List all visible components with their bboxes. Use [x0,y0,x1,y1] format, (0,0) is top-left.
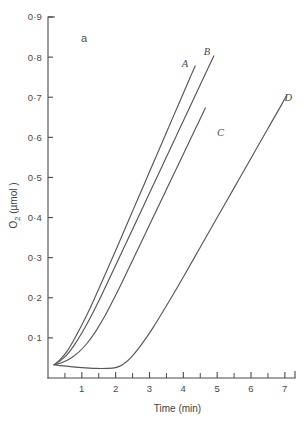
figure-panel-a: 0·90·80·70·60·50·40·30·20·11234567 ABCDa… [0,0,307,434]
y-axis-tick-label: 0·2 [28,292,42,303]
curve-b [54,56,214,365]
x-axis-tick-label: 1 [79,383,84,394]
x-axis-tick-label: 3 [147,383,152,394]
curve-a [54,66,195,365]
y-axis-tick-label: 0·1 [28,332,42,343]
y-axis-tick-label: 0·5 [28,172,42,183]
panel-label: a [81,32,88,44]
axes-group: 0·90·80·70·60·50·40·30·20·11234567 [28,11,295,394]
y-axis-tick-label: 0·8 [28,52,42,63]
x-axis-title: Time (min) [154,403,201,414]
y-axis-tick-label: 0·6 [28,132,42,143]
curve-label-a: A [181,58,189,69]
curve-label-c: C [217,127,225,138]
curve-label-b: B [204,46,211,57]
x-axis-tick-label: 2 [113,383,118,394]
curve-d [54,96,286,369]
y-axis-title-group: O2 (µmol ) [8,182,22,228]
x-axis-tick-label: 7 [282,383,287,394]
y-axis-tick-label: 0·9 [28,11,42,22]
x-axis-tick-label: 4 [181,383,186,394]
curve-label-d: D [283,92,292,103]
curves-group [54,56,286,369]
x-axis-tick-label: 6 [248,383,253,394]
y-axis-tick-label: 0·4 [28,212,42,223]
y-axis-title: O2 (µmol ) [8,182,22,228]
y-axis-tick-label: 0·7 [28,92,42,103]
oxygen-evolution-chart: 0·90·80·70·60·50·40·30·20·11234567 ABCDa… [0,0,307,434]
y-axis-tick-label: 0·3 [28,252,42,263]
x-axis-tick-label: 5 [214,383,219,394]
